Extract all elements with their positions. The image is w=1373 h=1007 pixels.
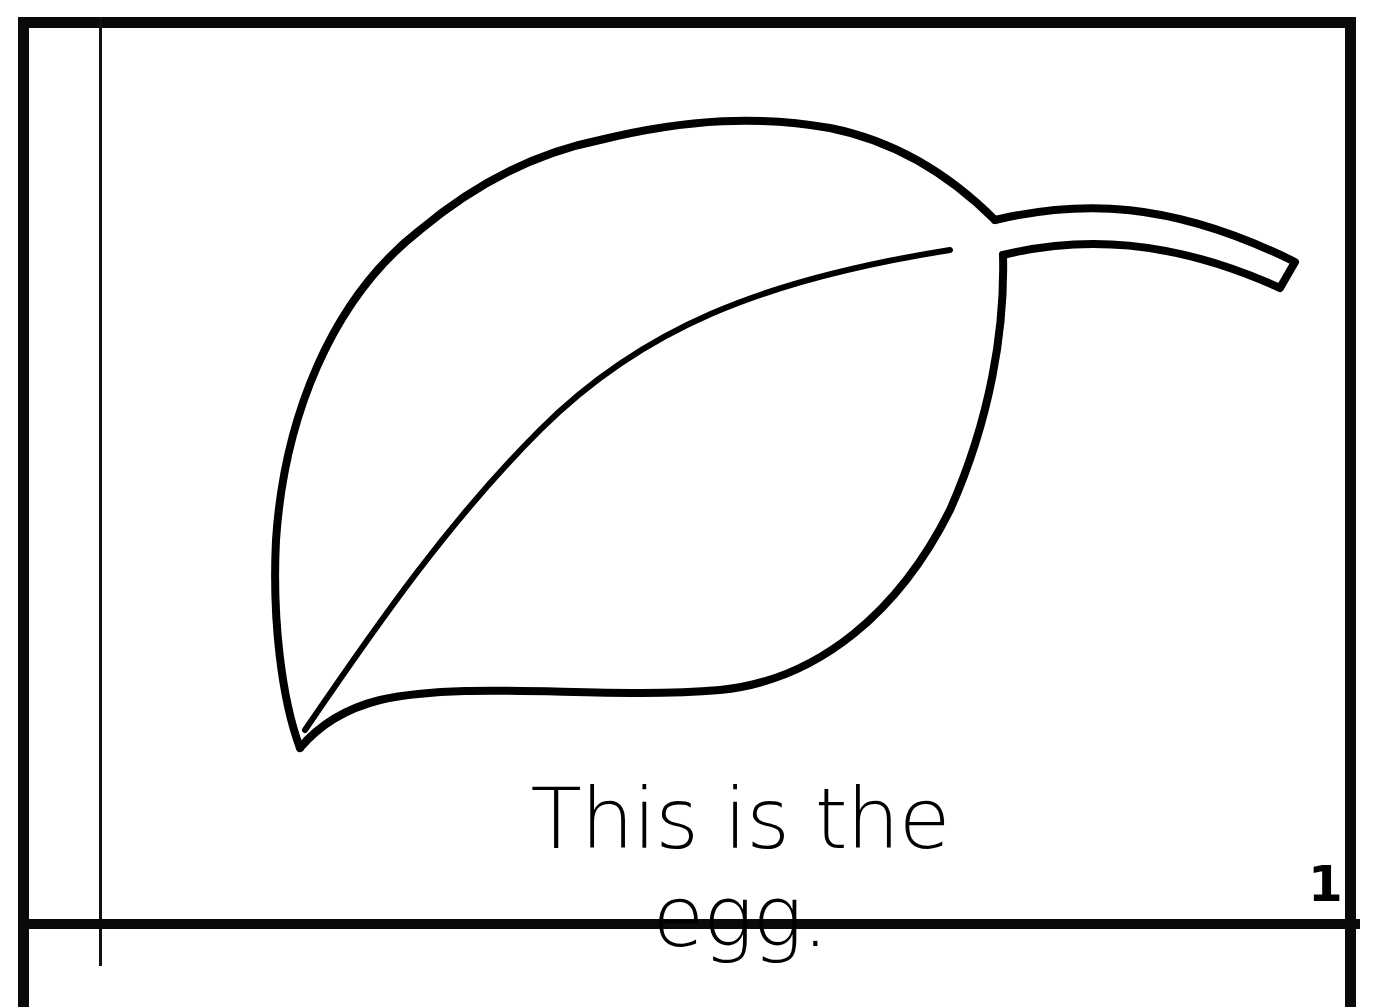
caption-text: This is the egg. bbox=[440, 770, 1040, 966]
page-number: 1 bbox=[1308, 855, 1343, 913]
